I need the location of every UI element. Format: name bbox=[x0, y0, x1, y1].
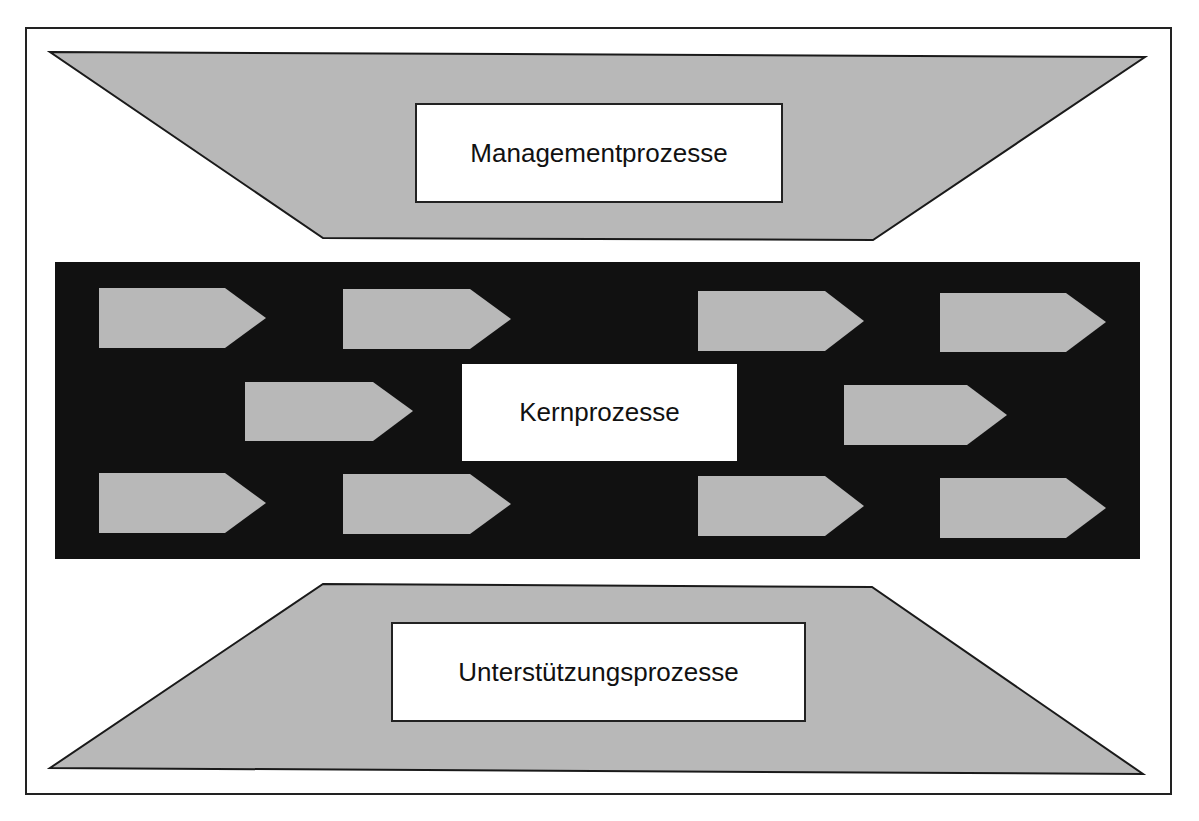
core-processes-text: Kernprozesse bbox=[519, 397, 679, 428]
support-processes-label: Unterstützungsprozesse bbox=[391, 622, 806, 722]
management-processes-text: Managementprozesse bbox=[470, 138, 727, 169]
management-processes-label: Managementprozesse bbox=[415, 103, 783, 203]
support-processes-text: Unterstützungsprozesse bbox=[458, 657, 738, 688]
core-processes-label: Kernprozesse bbox=[462, 364, 737, 461]
